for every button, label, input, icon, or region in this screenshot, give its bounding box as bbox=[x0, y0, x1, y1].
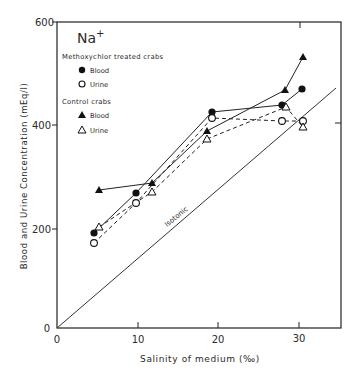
isotonic-line bbox=[57, 88, 336, 328]
legend-entry-urine: Urine bbox=[90, 81, 108, 89]
chart-title: Na+ bbox=[77, 28, 104, 46]
chart: 0 10 20 30 0 200 400 600 Salinity of med… bbox=[0, 0, 359, 382]
treated-urine-line bbox=[94, 118, 303, 243]
legend-entry-urine: Urine bbox=[90, 127, 108, 135]
y-tick-label: 200 bbox=[32, 224, 51, 235]
y-tick-label: 400 bbox=[32, 120, 51, 131]
treated-blood-line bbox=[94, 89, 302, 233]
x-axis-label: Salinity of medium (‰) bbox=[140, 354, 260, 364]
legend: Na+ Methoxychlor treated crabs Blood Uri… bbox=[62, 28, 164, 135]
legend-group-treated: Methoxychlor treated crabs bbox=[62, 53, 164, 61]
treated-blood-markers bbox=[90, 85, 305, 236]
x-tick-label: 10 bbox=[132, 334, 145, 345]
y-tick-label: 600 bbox=[35, 17, 54, 28]
control-urine-markers bbox=[95, 103, 307, 230]
x-tick-label: 0 bbox=[54, 334, 60, 345]
legend-open-circle-icon bbox=[79, 81, 85, 87]
legend-filled-triangle-icon bbox=[78, 111, 86, 118]
x-tick-label: 20 bbox=[212, 334, 225, 345]
legend-open-triangle-icon bbox=[78, 126, 86, 133]
legend-group-control: Control crabs bbox=[62, 98, 111, 106]
legend-entry-blood: Blood bbox=[90, 67, 109, 75]
legend-entry-blood: Blood bbox=[90, 112, 109, 120]
x-ticks bbox=[138, 22, 300, 328]
legend-filled-circle-icon bbox=[79, 67, 85, 73]
x-tick-label: 30 bbox=[293, 333, 306, 344]
y-axis-label: Blood and Urine Concentration (mEq/l) bbox=[19, 83, 29, 270]
treated-urine-markers bbox=[91, 115, 307, 247]
y-tick-label: 0 bbox=[44, 323, 50, 334]
